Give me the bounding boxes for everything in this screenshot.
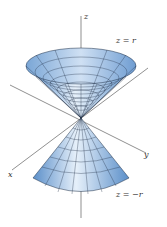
lower-cone-label: z = −r — [116, 190, 143, 199]
y-axis-label: y — [144, 150, 149, 159]
lower-cone — [33, 118, 129, 194]
double-cone-figure: z z = r y x z = −r — [0, 0, 167, 227]
x-axis-label: x — [8, 170, 13, 179]
upper-cone — [26, 48, 136, 118]
z-axis-label: z — [84, 12, 88, 21]
upper-cone-label: z = r — [116, 36, 136, 45]
